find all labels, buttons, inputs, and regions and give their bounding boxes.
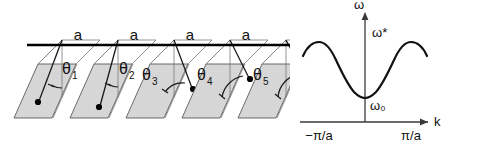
- omega-star-label: ω*: [372, 25, 387, 40]
- pendulum-bob-1: [35, 99, 41, 105]
- angle-label-3-subscript: 3: [152, 76, 158, 87]
- y-axis-arrowhead: [362, 12, 369, 20]
- plane-3: [126, 64, 188, 118]
- omega-zero-label: ω₀: [370, 98, 386, 113]
- plane-4-depth-edge-right: [244, 40, 268, 64]
- pendulum-lattice-diagram: θ 1 θ 2: [0, 0, 290, 148]
- spacing-label-1: a: [74, 26, 83, 43]
- physics-figure: θ 1 θ 2: [0, 0, 494, 148]
- plane-4-back-edge: [206, 40, 230, 64]
- angle-label-1: θ: [62, 60, 71, 77]
- plane-5-back-edge: [262, 40, 286, 64]
- pendulum-bob-2: [96, 104, 102, 110]
- angle-label-5: θ: [253, 66, 262, 83]
- x-axis-label: k: [434, 114, 441, 129]
- spacing-label-4: a: [242, 26, 251, 43]
- angle-label-1-subscript: 1: [72, 70, 78, 81]
- spacing-label-3: a: [186, 26, 195, 43]
- dispersion-relation-chart: k ω ω* ω₀ −π/a π/a: [290, 0, 494, 148]
- angle-label-2-subscript: 2: [129, 70, 135, 81]
- y-axis-label: ω: [354, 0, 364, 12]
- x-axis-arrowhead: [420, 119, 428, 126]
- plane-3-back-edge: [150, 40, 174, 64]
- plane-3-depth-edge-right: [188, 40, 212, 64]
- angle-label-4-subscript: 4: [207, 76, 213, 87]
- plane-1-back-edge: [38, 40, 62, 64]
- angle-label-4: θ: [197, 66, 206, 83]
- pendulum-cell-5: θ 5: [238, 40, 290, 118]
- plane-1-depth-edge-right: [76, 40, 100, 64]
- angle-label-2: θ: [119, 60, 128, 77]
- angle-label-3: θ: [142, 66, 151, 83]
- plane-2-depth-edge-right: [132, 40, 156, 64]
- angle-label-5-subscript: 5: [263, 76, 269, 87]
- x-tick-label-pi-over-a: π/a: [401, 128, 422, 143]
- x-tick-label-negative-pi-over-a: −π/a: [305, 128, 333, 143]
- spacing-label-2: a: [130, 26, 139, 43]
